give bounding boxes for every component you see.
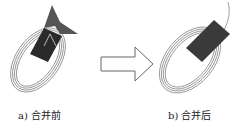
coil-after-merge-illustration [140, 0, 240, 100]
coil-before-merge-illustration [0, 0, 100, 100]
panel-before-merge [0, 0, 100, 100]
caption-before-merge: a) 合并前 [18, 107, 61, 122]
caption-after-merge: b) 合并后 [168, 107, 211, 122]
panel-after-merge [140, 0, 240, 100]
